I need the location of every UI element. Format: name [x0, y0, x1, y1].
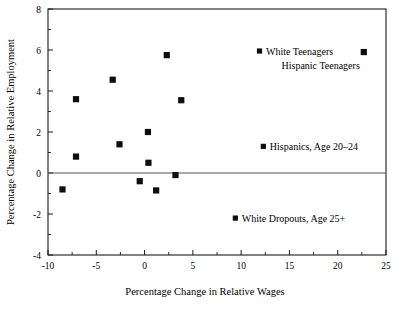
y-tick-label-4: 4: [36, 87, 41, 97]
chart-canvas: -10-50510152025 -4-202468 White Teenager…: [0, 0, 404, 310]
scatter-plot-figure: -10-50510152025 -4-202468 White Teenager…: [0, 0, 404, 310]
data-point-marker: [178, 97, 184, 103]
y-tick-label-6: 6: [36, 46, 41, 56]
y-tick-label-8: 8: [36, 5, 41, 15]
x-tick-label-10: 10: [236, 261, 246, 271]
y-tick-label-0: 0: [36, 169, 41, 179]
data-point-marker: [164, 52, 170, 58]
data-point-marker: [145, 160, 151, 166]
data-point-marker: [153, 187, 159, 193]
y-tick-label--2: -2: [33, 210, 41, 220]
data-point-marker: [73, 96, 79, 102]
data-point-marker: [73, 154, 79, 160]
x-tick-label-20: 20: [333, 261, 343, 271]
annotation-label: White Teenagers: [266, 46, 333, 57]
data-point-markers: [59, 49, 367, 194]
y-tick-label--4: -4: [33, 251, 41, 261]
data-point-marker: [110, 77, 116, 83]
x-axis-tick-labels: -10-50510152025: [42, 261, 391, 271]
data-point-marker: [116, 141, 122, 147]
chart-annotations: White TeenagersHispanic TeenagersHispani…: [233, 46, 360, 224]
x-tick-label-0: 0: [142, 261, 147, 271]
data-point-marker: [59, 186, 65, 192]
annotation-label: Hispanics, Age 20–24: [270, 141, 358, 152]
annotation-label: White Dropouts, Age 25+: [242, 213, 346, 224]
data-point-marker: [137, 178, 143, 184]
x-tick-label-15: 15: [285, 261, 295, 271]
annotation-label: Hispanic Teenagers: [282, 60, 360, 71]
y-axis-major-ticks: [48, 9, 53, 255]
data-point-marker: [361, 49, 367, 55]
x-axis-title: Percentage Change in Relative Wages: [125, 286, 284, 297]
x-tick-label--5: -5: [92, 261, 100, 271]
x-tick-label-25: 25: [381, 261, 391, 271]
data-point-marker: [145, 129, 151, 135]
annotation-marker: [257, 48, 262, 53]
y-tick-label-2: 2: [36, 128, 41, 138]
x-tick-label-5: 5: [190, 261, 195, 271]
data-point-marker: [172, 172, 178, 178]
annotation-marker: [233, 216, 238, 221]
x-tick-label--10: -10: [42, 261, 55, 271]
annotation-marker: [261, 144, 266, 149]
y-axis-tick-labels: -4-202468: [33, 5, 41, 261]
y-axis-title: Percentage Change in Relative Employment: [5, 39, 16, 225]
